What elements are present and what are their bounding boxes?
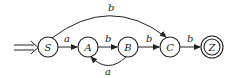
edge-label-b-to-a: a — [105, 66, 111, 77]
state-z-accepting: Z — [201, 36, 223, 58]
start-arrow — [14, 41, 38, 54]
edge-label-a-to-b: b — [105, 33, 111, 44]
svg-text:Z: Z — [208, 42, 217, 53]
state-c: C — [160, 37, 180, 57]
edge-label-c-to-z: b — [187, 33, 193, 44]
state-s: S — [38, 37, 58, 57]
state-b: B — [118, 37, 138, 57]
svg-text:B: B — [123, 42, 131, 53]
svg-text:C: C — [166, 42, 174, 53]
state-a: A — [78, 37, 98, 57]
edge-label-s-to-a: a — [64, 33, 70, 44]
svg-text:A: A — [83, 42, 91, 53]
automaton-diagram: b a b b b a S A B C Z — [0, 0, 237, 78]
edge-label-b-to-c: b — [146, 33, 152, 44]
edge-label-s-to-c: b — [108, 2, 114, 13]
svg-text:S: S — [45, 42, 52, 53]
edge-b-to-a — [91, 57, 126, 66]
